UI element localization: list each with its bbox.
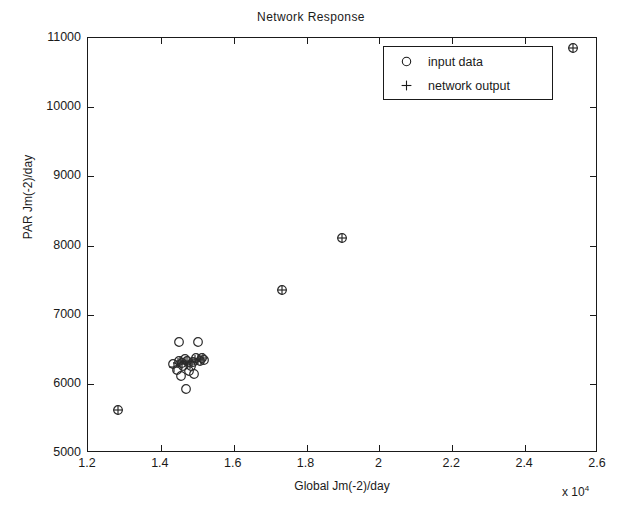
y-axis-tick <box>88 246 94 247</box>
x-axis-tick-label: 2.6 <box>588 456 605 470</box>
x-axis-tick-label: 2.4 <box>515 456 532 470</box>
x-axis-multiplier-base: x 10 <box>562 485 585 499</box>
plus-marker-icon <box>384 79 428 92</box>
x-axis-tick-label: 1.6 <box>224 456 241 470</box>
data-point-network-output <box>112 404 125 417</box>
y-axis-tick <box>88 315 94 316</box>
legend-label-input-data: input data <box>428 55 483 69</box>
x-axis-tick-top <box>525 38 526 44</box>
data-point-input-data <box>179 382 192 395</box>
data-point-network-output <box>336 231 349 244</box>
data-point-input-data <box>172 335 185 348</box>
x-axis-tick-label: 1.4 <box>151 456 168 470</box>
y-axis-tick-label: 10000 <box>46 99 81 113</box>
chart-title: Network Response <box>0 10 622 24</box>
y-axis-tick-label: 5000 <box>53 445 81 459</box>
figure-canvas: Network Response PAR Jm(-2)/day Global J… <box>0 0 622 520</box>
y-axis-tick-label: 9000 <box>53 168 81 182</box>
y-axis-tick-right <box>590 384 596 385</box>
y-axis-tick-right <box>590 246 596 247</box>
x-axis-tick-top <box>161 38 162 44</box>
data-point-network-output <box>566 41 579 54</box>
x-axis-label: Global Jm(-2)/day <box>87 479 597 493</box>
data-point-input-data <box>192 336 205 349</box>
y-axis-label: PAR Jm(-2)/day <box>21 107 35 287</box>
x-axis-tick-label: 2.2 <box>443 456 460 470</box>
x-axis-tick <box>525 445 526 451</box>
x-axis-tick-label: 1.8 <box>297 456 314 470</box>
y-axis-tick <box>88 384 94 385</box>
legend-item-input-data: input data <box>384 50 552 73</box>
x-axis-tick <box>452 445 453 451</box>
x-axis-tick <box>379 445 380 451</box>
x-axis-tick-top <box>307 38 308 44</box>
x-axis-tick-top <box>452 38 453 44</box>
legend-item-network-output: network output <box>384 74 552 97</box>
x-axis-tick-top <box>379 38 380 44</box>
x-axis-multiplier-exponent: 4 <box>585 484 589 493</box>
x-axis-tick <box>161 445 162 451</box>
circle-marker-icon <box>384 55 428 68</box>
y-axis-tick-right <box>590 176 596 177</box>
legend-label-network-output: network output <box>428 79 510 93</box>
x-axis-tick <box>307 445 308 451</box>
y-axis-tick-label: 7000 <box>53 307 81 321</box>
legend: input data network output <box>383 46 553 100</box>
data-point-network-output <box>275 284 288 297</box>
y-axis-tick-label: 8000 <box>53 238 81 252</box>
data-point-network-output <box>197 352 210 365</box>
y-axis-tick-right <box>590 107 596 108</box>
y-axis-tick-right <box>590 315 596 316</box>
y-axis-tick-label: 6000 <box>53 376 81 390</box>
x-axis-tick <box>234 445 235 451</box>
y-axis-tick <box>88 176 94 177</box>
x-axis-multiplier: x 104 <box>562 484 589 499</box>
x-axis-tick-top <box>234 38 235 44</box>
y-axis-tick-label: 11000 <box>47 30 81 44</box>
y-axis-tick <box>88 107 94 108</box>
x-axis-tick-label: 2 <box>375 456 382 470</box>
